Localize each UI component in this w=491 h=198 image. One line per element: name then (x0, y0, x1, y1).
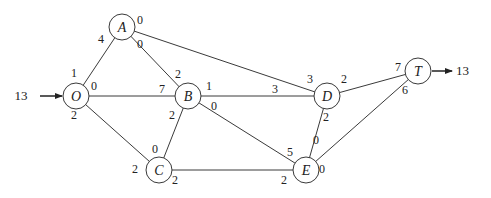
edges-layer (76, 27, 418, 170)
edge-label: 3 (307, 72, 313, 86)
edge-label: 0 (137, 13, 143, 27)
edge-label: 1 (206, 79, 212, 93)
edge-label: 2 (132, 162, 138, 176)
edge-a-b (122, 27, 188, 96)
node-d: D (314, 83, 340, 109)
network-flow-diagram: 1313 OABCDET 102400271200223322500276 (0, 0, 491, 198)
node-label: O (71, 89, 81, 104)
node-o: O (63, 83, 89, 109)
edge-label: 2 (175, 67, 181, 81)
edge-label: 0 (91, 79, 97, 93)
edge-label: 2 (323, 110, 329, 124)
edge-label: 7 (395, 60, 401, 74)
node-label: A (117, 20, 127, 35)
node-a: A (109, 14, 135, 40)
edge-label: 0 (211, 99, 217, 113)
node-label: E (301, 163, 311, 178)
edge-a-d (122, 27, 327, 96)
edge-label: 0 (152, 142, 158, 156)
edge-label: 2 (281, 173, 287, 187)
node-c: C (146, 157, 172, 183)
edge-label: 5 (287, 145, 293, 159)
edge-label: 6 (402, 83, 408, 97)
edge-label: 2 (71, 108, 77, 122)
node-t: T (405, 58, 431, 84)
node-e: E (293, 157, 319, 183)
edge-label: 3 (272, 82, 278, 96)
node-label: D (321, 89, 332, 104)
node-label: C (154, 163, 164, 178)
edge-label: 0 (313, 133, 319, 147)
edge-label: 1 (71, 66, 77, 80)
nodes-layer: OABCDET (63, 14, 431, 183)
edge-label: 2 (169, 108, 175, 122)
node-b: B (175, 83, 201, 109)
source-flow-amount: 13 (15, 88, 28, 103)
node-label: T (414, 64, 423, 79)
edge-label: 4 (98, 32, 104, 46)
edge-label: 0 (319, 162, 325, 176)
edge-label: 7 (159, 82, 165, 96)
edge-label: 2 (341, 72, 347, 86)
edge-o-c (76, 96, 159, 170)
node-label: B (184, 89, 193, 104)
edge-label: 2 (172, 173, 178, 187)
sink-flow-amount: 13 (456, 63, 469, 78)
edge-label: 0 (137, 37, 143, 51)
